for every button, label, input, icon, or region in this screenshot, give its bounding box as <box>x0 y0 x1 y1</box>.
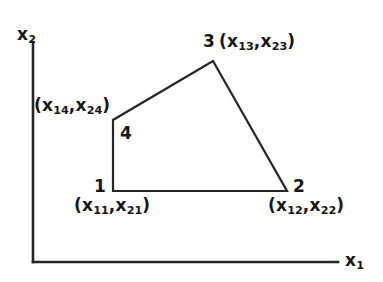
vertex-2-coordinate: (x12,x22) <box>268 197 344 214</box>
polygon-shape <box>113 61 287 191</box>
vertex-1-coordinate: (x11,x21) <box>74 197 150 214</box>
x-axis-label: x1 <box>345 252 364 269</box>
vertex-4-number: 4 <box>120 125 132 142</box>
vertex-3-number: 3 <box>203 33 215 50</box>
y-axis-label: x2 <box>17 26 36 43</box>
vertex-2-number: 2 <box>293 178 305 195</box>
vertex-3-coordinate: (x13,x23) <box>219 33 295 50</box>
vertex-4-coordinate: (x14,x24) <box>34 97 110 114</box>
diagram-canvas <box>0 0 383 282</box>
vertex-1-number: 1 <box>94 178 106 195</box>
